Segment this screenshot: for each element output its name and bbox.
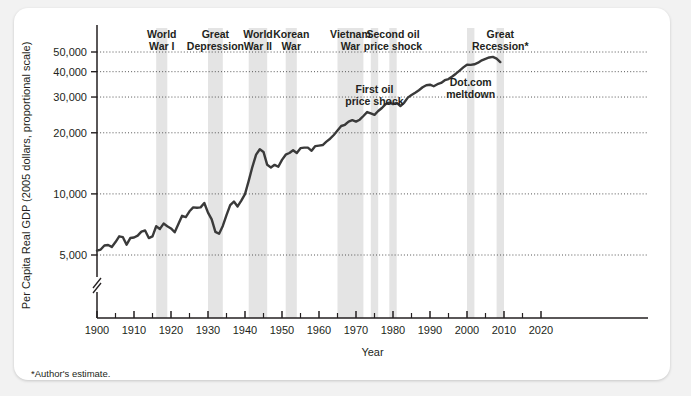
x-tick-label: 1960 bbox=[307, 324, 331, 336]
x-tick-label: 1970 bbox=[344, 324, 368, 336]
band-label-text: meltdown bbox=[446, 88, 495, 100]
x-tick-label: 1920 bbox=[159, 324, 183, 336]
x-tick-label: 1900 bbox=[85, 324, 109, 336]
shaded-band-3 bbox=[286, 28, 297, 318]
figure-root: 5,00010,00020,00030,00040,00050,000 1900… bbox=[0, 0, 691, 396]
y-tick-label: 50,000 bbox=[53, 46, 87, 58]
axes-layer bbox=[91, 25, 648, 318]
chart-area: 5,00010,00020,00030,00040,00050,000 1900… bbox=[0, 0, 691, 396]
band-label-text: Great bbox=[202, 28, 230, 40]
x-tick-label: 1910 bbox=[122, 324, 146, 336]
x-tick-label: 1940 bbox=[233, 324, 257, 336]
band-label-text: War I bbox=[149, 40, 174, 52]
x-tick-label: 2020 bbox=[529, 324, 553, 336]
y-tick-label: 40,000 bbox=[53, 66, 87, 78]
band-label-text: First oil bbox=[356, 83, 394, 95]
band-label-text: Second oil bbox=[366, 28, 419, 40]
x-axis-title: Year bbox=[361, 346, 384, 358]
y-axis-title: Per Capita Real GDP (2005 dollars, propo… bbox=[20, 42, 32, 310]
y-tick-label: 5,000 bbox=[59, 249, 87, 261]
axis-break-mark-0 bbox=[93, 278, 101, 288]
band-label-text: price shock bbox=[364, 40, 423, 52]
band-label-text: Depression bbox=[187, 40, 244, 52]
shaded-band-7 bbox=[467, 28, 474, 318]
band-label-text: Korean bbox=[273, 28, 309, 40]
x-tick-label: 2000 bbox=[455, 324, 479, 336]
x-tick-label: 1980 bbox=[381, 324, 405, 336]
band-label-text: price shock bbox=[345, 95, 404, 107]
gdp-line-chart: 5,00010,00020,00030,00040,00050,000 1900… bbox=[0, 0, 691, 396]
x-tick-label: 1950 bbox=[270, 324, 294, 336]
y-tick-label: 20,000 bbox=[53, 127, 87, 139]
shaded-band-4 bbox=[338, 28, 364, 318]
band-label-text: World bbox=[147, 28, 177, 40]
band-label-text: War bbox=[341, 40, 360, 52]
band-label-text: War II bbox=[244, 40, 272, 52]
band-label-text: Great bbox=[487, 28, 515, 40]
shaded-band-5 bbox=[371, 28, 378, 318]
band-label-text: Vietnam bbox=[330, 28, 371, 40]
y-tick-label: 10,000 bbox=[53, 188, 87, 200]
band-label-text: Dot.com bbox=[450, 76, 492, 88]
axis-break-mark-1 bbox=[93, 283, 101, 293]
band-label-text: Recession* bbox=[472, 40, 530, 52]
x-tick-label: 1930 bbox=[196, 324, 220, 336]
band-label-text: World bbox=[243, 28, 273, 40]
footnote: *Author's estimate. bbox=[31, 368, 110, 379]
y-tick-label: 30,000 bbox=[53, 91, 87, 103]
x-tick-label: 2010 bbox=[492, 324, 516, 336]
band-label-text: War bbox=[282, 40, 301, 52]
x-tick-labels: 1900191019201930194019501960197019801990… bbox=[85, 324, 553, 336]
y-tick-labels: 5,00010,00020,00030,00040,00050,000 bbox=[53, 46, 87, 261]
x-tick-label: 1990 bbox=[418, 324, 442, 336]
